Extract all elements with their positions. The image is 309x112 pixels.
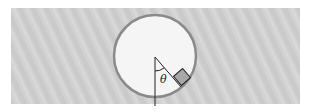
- diagram-canvas: θ: [0, 0, 309, 112]
- theta-label: θ: [160, 73, 167, 86]
